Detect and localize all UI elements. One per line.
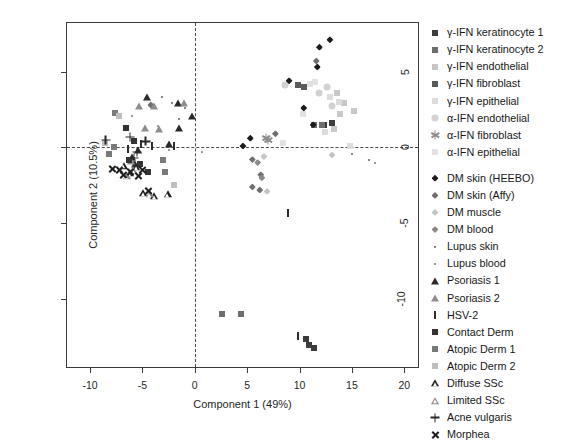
legend-item-label: α-IFN fibroblast bbox=[447, 130, 521, 141]
data-point bbox=[334, 90, 340, 96]
legend-swatch bbox=[428, 60, 442, 74]
legend-swatch bbox=[428, 325, 442, 339]
legend-item-label: Lupus skin bbox=[447, 241, 499, 252]
x-tick-label: 15 bbox=[346, 379, 358, 391]
legend-item-label: Atopic Derm 1 bbox=[447, 344, 515, 355]
data-point bbox=[329, 103, 336, 110]
legend-item[interactable]: γ-IFN keratinocyte 1 bbox=[428, 24, 577, 41]
legend-swatch bbox=[428, 94, 442, 108]
data-point bbox=[286, 77, 293, 84]
data-point bbox=[316, 89, 323, 96]
marker-square bbox=[432, 346, 438, 352]
legend-item[interactable]: α-IFN epithelial bbox=[428, 144, 577, 161]
x-tick-label: 5 bbox=[244, 379, 250, 391]
legend-swatch bbox=[428, 411, 442, 425]
y-tick-label: -5 bbox=[399, 217, 408, 229]
data-point bbox=[323, 83, 330, 90]
data-point bbox=[297, 332, 299, 340]
legend-swatch bbox=[428, 274, 442, 288]
legend-item[interactable]: α-IFN endothelial bbox=[428, 109, 577, 126]
data-point bbox=[280, 140, 286, 146]
data-point bbox=[322, 129, 328, 135]
data-point bbox=[281, 82, 288, 89]
marker-triangle-open bbox=[431, 380, 439, 387]
x-tick-label: -10 bbox=[82, 379, 97, 391]
marker-diamond bbox=[432, 192, 439, 199]
data-point bbox=[313, 57, 320, 64]
data-point bbox=[327, 94, 333, 100]
legend-swatch bbox=[428, 257, 442, 271]
legend-item[interactable]: Diffuse SSc bbox=[428, 375, 577, 392]
legend-swatch bbox=[428, 171, 442, 185]
legend-item-label: Limited SSc bbox=[447, 395, 505, 406]
legend-item[interactable]: Atopic Derm 1 bbox=[428, 341, 577, 358]
legend-swatch bbox=[428, 291, 442, 305]
data-point bbox=[336, 99, 342, 105]
legend-item[interactable]: Limited SSc bbox=[428, 392, 577, 409]
legend-item[interactable]: DM blood bbox=[428, 221, 577, 238]
legend-item-label: DM skin (Affy) bbox=[447, 190, 515, 201]
legend-item[interactable]: Psoriasis 1 bbox=[428, 272, 577, 289]
marker-triangle bbox=[431, 277, 439, 284]
legend-group-separator bbox=[428, 161, 577, 170]
legend-item[interactable]: Acne vulgaris bbox=[428, 409, 577, 426]
legend-item[interactable]: γ-IFN fibroblast bbox=[428, 75, 577, 92]
legend-item[interactable]: Psoriasis 2 bbox=[428, 289, 577, 306]
y-axis-title: Component 2 (10.5%) bbox=[0, 22, 266, 368]
marker-vbar bbox=[434, 311, 436, 319]
legend-swatch bbox=[428, 240, 442, 254]
legend-item-label: Morphea bbox=[447, 429, 490, 440]
marker-square bbox=[432, 64, 438, 70]
legend-item[interactable]: γ-IFN keratinocyte 2 bbox=[428, 41, 577, 58]
data-point bbox=[303, 336, 309, 342]
marker-diamond bbox=[432, 175, 439, 182]
legend-item[interactable]: γ-IFN epithelial bbox=[428, 92, 577, 109]
legend-swatch bbox=[428, 359, 442, 373]
legend-item[interactable]: α-IFN fibroblast bbox=[428, 127, 577, 144]
legend-item-label: γ-IFN keratinocyte 2 bbox=[447, 44, 544, 55]
legend-item-label: α-IFN epithelial bbox=[447, 147, 520, 158]
marker-triangle-open bbox=[431, 397, 439, 404]
legend-swatch bbox=[428, 188, 442, 202]
legend-swatch bbox=[428, 308, 442, 322]
legend-swatch bbox=[428, 111, 442, 125]
marker-square bbox=[432, 81, 438, 87]
marker-square bbox=[432, 149, 438, 155]
data-point bbox=[331, 126, 337, 132]
legend-item-label: γ-IFN epithelial bbox=[447, 96, 519, 107]
legend-item[interactable]: Lupus skin bbox=[428, 238, 577, 255]
legend-item[interactable]: Morphea bbox=[428, 426, 577, 443]
legend-item[interactable]: DM skin (HEEBO) bbox=[428, 170, 577, 187]
x-axis-title: Component 1 (49%) bbox=[66, 398, 419, 410]
legend-item-label: α-IFN endothelial bbox=[447, 113, 529, 124]
data-point bbox=[310, 121, 317, 128]
legend-item[interactable]: DM muscle bbox=[428, 204, 577, 221]
data-point bbox=[314, 64, 321, 71]
data-point bbox=[300, 104, 307, 111]
legend-item[interactable]: DM skin (Affy) bbox=[428, 187, 577, 204]
data-point bbox=[351, 108, 357, 114]
legend-item-label: γ-IFN fibroblast bbox=[447, 78, 520, 89]
data-point bbox=[311, 122, 317, 128]
legend-item[interactable]: HSV-2 bbox=[428, 307, 577, 324]
legend-swatch bbox=[428, 128, 442, 142]
legend-item-label: γ-IFN endothelial bbox=[447, 61, 529, 72]
legend-item[interactable]: γ-IFN endothelial bbox=[428, 58, 577, 75]
legend-item[interactable]: Atopic Derm 2 bbox=[428, 358, 577, 375]
legend-item[interactable]: Contact Derm bbox=[428, 324, 577, 341]
y-tick-label: 5 bbox=[402, 66, 408, 78]
data-point bbox=[311, 345, 317, 351]
legend-item[interactable]: Lupus blood bbox=[428, 255, 577, 272]
legend-item-label: Contact Derm bbox=[447, 327, 514, 338]
marker-plus bbox=[431, 413, 440, 422]
data-point bbox=[272, 130, 279, 137]
legend-item-label: Psoriasis 2 bbox=[447, 293, 500, 304]
legend-item-label: Psoriasis 1 bbox=[447, 275, 500, 286]
marker-star bbox=[431, 131, 440, 140]
x-tick-label: 10 bbox=[294, 379, 306, 391]
data-point bbox=[337, 111, 343, 117]
data-point bbox=[312, 79, 318, 85]
legend-swatch bbox=[428, 376, 442, 390]
y-tick-label: 0 bbox=[402, 141, 408, 153]
